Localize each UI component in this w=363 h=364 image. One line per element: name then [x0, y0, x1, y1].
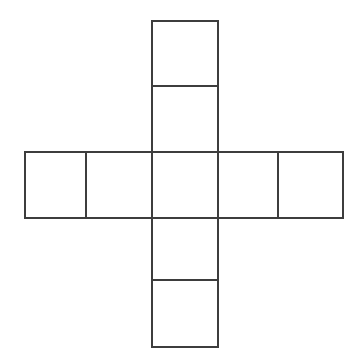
cube-net-diagram: [0, 0, 363, 364]
net-cell-bottom-cell-1: [152, 218, 218, 280]
net-cell-top-cell-2: [152, 86, 218, 152]
net-cell-left-cell-2: [86, 152, 152, 218]
figure-canvas: [0, 0, 363, 364]
net-cell-left-cell-1: [25, 152, 86, 218]
net-cell-top-cell-1: [152, 21, 218, 86]
net-cell-center-cell: [152, 152, 218, 218]
net-cell-right-cell-1: [218, 152, 278, 218]
net-cell-right-cell-2: [278, 152, 343, 218]
net-cell-bottom-cell-2: [152, 280, 218, 347]
